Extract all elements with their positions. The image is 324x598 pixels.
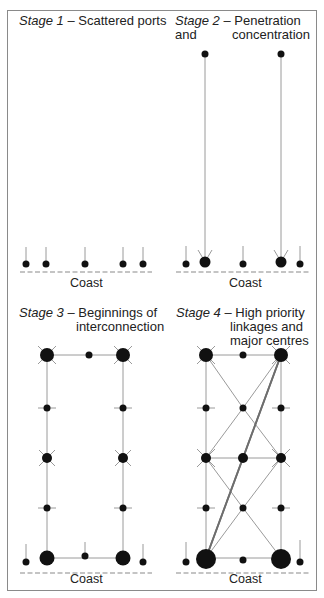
port-node bbox=[183, 261, 190, 268]
port-node bbox=[23, 559, 30, 566]
major-port-node bbox=[276, 257, 287, 268]
major-node bbox=[40, 348, 54, 362]
node bbox=[278, 405, 285, 412]
node bbox=[240, 352, 247, 359]
major-node bbox=[116, 348, 130, 362]
node bbox=[203, 405, 210, 412]
port-node bbox=[297, 261, 304, 268]
port-node bbox=[140, 261, 147, 268]
node bbox=[203, 505, 210, 512]
inland-node bbox=[202, 51, 209, 58]
node bbox=[278, 505, 285, 512]
port-node bbox=[43, 261, 50, 268]
node bbox=[240, 505, 247, 512]
port-node bbox=[120, 261, 127, 268]
medium-node bbox=[238, 453, 248, 463]
major-port-node bbox=[116, 551, 131, 566]
major-centre-port bbox=[271, 549, 291, 569]
major-port-node bbox=[40, 551, 55, 566]
port-node bbox=[82, 553, 89, 560]
stage4-network bbox=[176, 346, 310, 573]
port-node bbox=[23, 261, 30, 268]
node bbox=[120, 405, 127, 412]
major-centre-node bbox=[199, 348, 213, 362]
stage3-network bbox=[20, 346, 152, 573]
medium-node bbox=[276, 453, 286, 463]
port-node bbox=[240, 557, 247, 564]
port-node bbox=[183, 559, 190, 566]
port-node bbox=[297, 559, 304, 566]
network-diagram bbox=[0, 0, 324, 598]
port-node bbox=[240, 261, 247, 268]
port-node bbox=[140, 559, 147, 566]
node bbox=[240, 405, 247, 412]
node bbox=[86, 352, 93, 359]
port-node bbox=[82, 261, 89, 268]
node bbox=[44, 505, 51, 512]
stage1-network bbox=[20, 247, 152, 272]
medium-node bbox=[118, 453, 128, 463]
major-port-node bbox=[200, 257, 211, 268]
medium-node bbox=[201, 453, 211, 463]
medium-node bbox=[42, 453, 52, 463]
stage2-network bbox=[176, 51, 310, 273]
node bbox=[44, 405, 51, 412]
major-centre-port bbox=[196, 549, 216, 569]
major-centre-node bbox=[274, 348, 288, 362]
node bbox=[120, 505, 127, 512]
inland-node bbox=[278, 51, 285, 58]
